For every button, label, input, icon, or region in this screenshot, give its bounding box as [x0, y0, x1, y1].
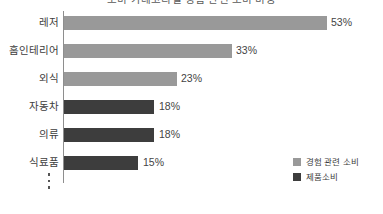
bar-value-5: 15%	[143, 155, 164, 170]
chart-legend: 경험 관련 소비 제품소비	[293, 155, 383, 185]
category-label-3: 자동차	[0, 99, 59, 114]
table-row: 레저 53%	[0, 16, 383, 30]
category-label-0: 레저	[0, 15, 59, 30]
category-label-2: 외식	[0, 71, 59, 86]
category-label-1: 홈인테리어	[0, 43, 59, 58]
category-label-5: 식료품	[0, 155, 59, 170]
bar-value-0: 53%	[331, 15, 352, 30]
legend-label-product: 제품소비	[306, 172, 338, 182]
bar-value-4: 18%	[159, 127, 180, 142]
table-row: 자동차 18%	[0, 100, 383, 114]
vertical-ellipsis-icon	[44, 173, 54, 193]
category-label-4: 의류	[0, 127, 59, 142]
table-row: 의류 18%	[0, 128, 383, 142]
bar-5[interactable]	[64, 156, 138, 170]
bar-1[interactable]	[64, 44, 232, 58]
bar-value-1: 33%	[236, 43, 257, 58]
legend-item-experience[interactable]: 경험 관련 소비	[293, 155, 383, 168]
bar-4[interactable]	[64, 128, 154, 142]
legend-label-experience: 경험 관련 소비	[306, 157, 359, 167]
bar-2[interactable]	[64, 72, 177, 86]
bar-value-3: 18%	[159, 99, 180, 114]
bar-value-2: 23%	[181, 71, 202, 86]
table-row: 외식 23%	[0, 72, 383, 86]
bar-0[interactable]	[64, 16, 327, 30]
bar-3[interactable]	[64, 100, 154, 114]
chart-title: 소비 카테고리별 경험 관련 소비 비중	[0, 0, 383, 6]
table-row: 홈인테리어 33%	[0, 44, 383, 58]
legend-swatch-icon-product	[293, 173, 301, 181]
legend-item-product[interactable]: 제품소비	[293, 170, 383, 183]
legend-swatch-icon-experience	[293, 158, 301, 166]
bar-chart: 소비 카테고리별 경험 관련 소비 비중 레저 53% 홈인테리어 33% 외식…	[0, 0, 383, 214]
